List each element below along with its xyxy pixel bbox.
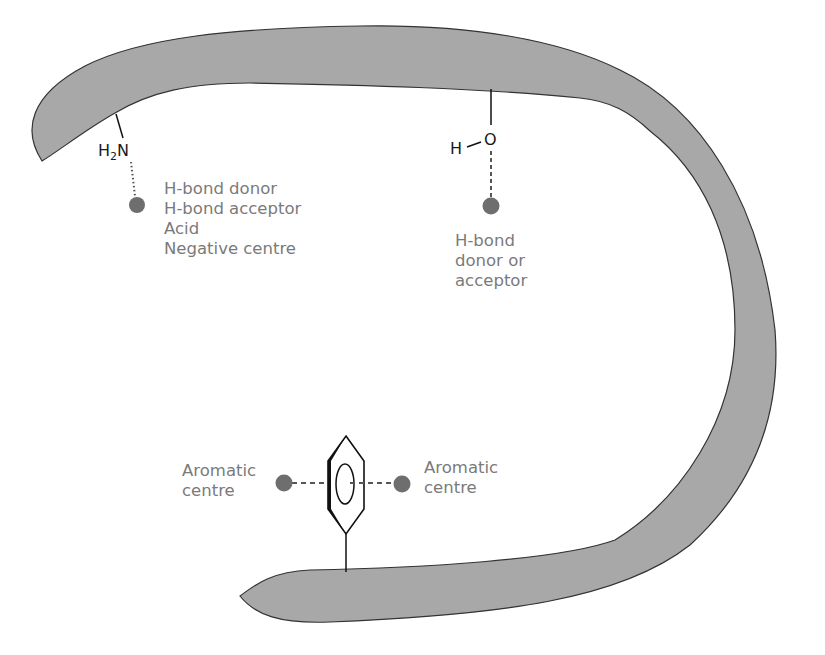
amine-formula-n: N bbox=[117, 141, 129, 160]
aromatic-right-label-line2: centre bbox=[424, 478, 477, 498]
amine-label-negative-centre: Negative centre bbox=[164, 239, 296, 259]
binding-pocket-surface bbox=[32, 26, 776, 622]
amine-formula-h: H bbox=[98, 141, 110, 160]
aromatic-left-label-line2: centre bbox=[182, 481, 235, 501]
aromatic-left-point bbox=[276, 475, 293, 492]
hydroxyl-label-line2: donor or bbox=[455, 251, 525, 271]
amine-interaction-point bbox=[129, 197, 145, 213]
hydroxyl-h-bond bbox=[467, 142, 481, 147]
hydroxyl-interaction-point bbox=[483, 198, 500, 215]
amine-label-hbond-acceptor: H-bond acceptor bbox=[164, 199, 301, 219]
binding-site-diagram bbox=[0, 0, 825, 655]
benzene-ring bbox=[328, 436, 364, 534]
hydroxyl-formula-h: H bbox=[450, 140, 462, 158]
amine-formula-subscript: 2 bbox=[110, 150, 117, 163]
amine-hbond-dotted bbox=[131, 162, 135, 196]
aromatic-right-point bbox=[394, 476, 411, 493]
amine-label-hbond-donor: H-bond donor bbox=[164, 179, 277, 199]
aromatic-left-label-line1: Aromatic bbox=[182, 461, 256, 481]
hydroxyl-label-line3: acceptor bbox=[455, 271, 527, 291]
hydroxyl-formula-o: O bbox=[484, 131, 497, 149]
amine-formula: H2N bbox=[98, 142, 129, 166]
amine-bond-line bbox=[116, 114, 123, 138]
aromatic-right-label-line1: Aromatic bbox=[424, 458, 498, 478]
amine-label-acid: Acid bbox=[164, 219, 199, 239]
hydroxyl-label-line1: H-bond bbox=[455, 231, 515, 251]
